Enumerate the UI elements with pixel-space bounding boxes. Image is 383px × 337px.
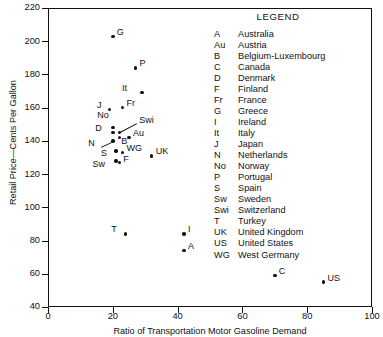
legend-entry-code: UK	[214, 227, 238, 238]
data-point	[182, 232, 185, 235]
scatter-chart-figure: 406080100120140160180200220 020406080100…	[0, 0, 383, 337]
y-axis-title: Retail Price—Cents Per Gallon	[9, 53, 18, 233]
legend-entry-code: Swi	[214, 205, 238, 216]
y-tick-mark	[42, 8, 48, 9]
y-tick-mark	[42, 141, 48, 142]
legend-entry-name: Portugal	[238, 172, 364, 183]
legend-entry-name: West Germany	[238, 250, 364, 261]
legend-entry-code: US	[214, 238, 238, 249]
legend-entry-code: F	[214, 84, 238, 95]
data-point-label: Sw	[93, 160, 106, 169]
legend-entries: AAustraliaAuAustriaBBelgium-LuxembourgCC…	[214, 29, 364, 261]
legend: LEGEND AAustraliaAuAustriaBBelgium-Luxem…	[214, 12, 364, 261]
legend-entry-code: N	[214, 150, 238, 161]
legend-entry-name: Sweden	[238, 194, 364, 205]
legend-entry: IIreland	[214, 117, 364, 128]
legend-entry-code: P	[214, 172, 238, 183]
data-point-label: D	[95, 124, 102, 133]
legend-entry-name: Norway	[238, 161, 364, 172]
legend-entry-code: A	[214, 29, 238, 40]
legend-title: LEGEND	[214, 12, 364, 22]
legend-entry-name: United Kingdom	[238, 227, 364, 238]
legend-entry: ItItaly	[214, 128, 364, 139]
y-tick-mark	[42, 274, 48, 275]
y-tick-mark	[42, 41, 48, 42]
legend-entry-code: No	[214, 161, 238, 172]
y-tick-mark	[42, 74, 48, 75]
legend-entry: AuAustria	[214, 40, 364, 51]
legend-entry: BBelgium-Luxembourg	[214, 51, 364, 62]
legend-entry-code: G	[214, 106, 238, 117]
legend-entry: PPortugal	[214, 172, 364, 183]
legend-entry-name: Ireland	[238, 117, 364, 128]
data-point-label: C	[279, 267, 286, 276]
legend-entry-name: Switzerland	[238, 205, 364, 216]
legend-entry-name: Spain	[238, 183, 364, 194]
legend-entry-name: Japan	[238, 139, 364, 150]
y-tick-label: 80	[6, 236, 40, 245]
legend-entry-code: Au	[214, 40, 238, 51]
legend-entry: WGWest Germany	[214, 250, 364, 261]
legend-entry: FrFrance	[214, 95, 364, 106]
data-point-label: A	[188, 242, 194, 251]
legend-entry-name: France	[238, 95, 364, 106]
legend-entry-name: Australia	[238, 29, 364, 40]
data-point	[111, 131, 114, 134]
legend-entry-name: Netherlands	[238, 150, 364, 161]
data-point	[182, 249, 185, 252]
legend-entry-code: J	[214, 139, 238, 150]
data-point-label: P	[139, 59, 145, 68]
legend-entry: NoNorway	[214, 161, 364, 172]
y-tick-mark	[42, 207, 48, 208]
y-tick-label: 220	[6, 3, 40, 12]
y-tick-mark	[42, 241, 48, 242]
data-point	[273, 274, 276, 277]
legend-entry-code: T	[214, 216, 238, 227]
legend-entry: CCanada	[214, 62, 364, 73]
y-tick-mark	[42, 108, 48, 109]
legend-entry: AAustralia	[214, 29, 364, 40]
legend-entry-name: Austria	[238, 40, 364, 51]
legend-entry-code: Sw	[214, 194, 238, 205]
data-point	[118, 161, 121, 164]
x-tick-label: 100	[357, 312, 383, 321]
data-point	[111, 35, 114, 38]
legend-entry: DDenmark	[214, 73, 364, 84]
legend-entry-code: D	[214, 73, 238, 84]
legend-entry-name: United States	[238, 238, 364, 249]
legend-entry: SwSweden	[214, 194, 364, 205]
data-point	[134, 66, 137, 69]
legend-entry-code: C	[214, 62, 238, 73]
legend-entry: FFinland	[214, 84, 364, 95]
data-point-label: I	[188, 225, 191, 234]
legend-entry-code: WG	[214, 250, 238, 261]
data-point-label: Swi	[139, 116, 154, 125]
data-point-label: T	[111, 225, 117, 234]
legend-entry-name: Canada	[238, 62, 364, 73]
data-point-label: WG	[127, 144, 143, 153]
legend-entry-name: Turkey	[238, 216, 364, 227]
legend-entry: GGreece	[214, 106, 364, 117]
data-point-label: US	[327, 274, 340, 283]
data-point-label: Au	[133, 129, 144, 138]
y-tick-mark	[42, 174, 48, 175]
x-tick-label: 20	[98, 312, 128, 321]
data-point	[150, 154, 153, 157]
x-tick-label: 40	[163, 312, 193, 321]
x-tick-label: 60	[227, 312, 257, 321]
legend-entry-code: S	[214, 183, 238, 194]
x-axis-title: Ratio of Transportation Motor Gasoline D…	[48, 327, 372, 336]
data-point-label: No	[97, 111, 109, 120]
data-point	[114, 149, 117, 152]
data-point-label: S	[101, 149, 107, 158]
legend-entry: SwiSwitzerland	[214, 205, 364, 216]
legend-entry-name: Italy	[238, 128, 364, 139]
legend-entry-name: Greece	[238, 106, 364, 117]
legend-entry-code: It	[214, 128, 238, 139]
legend-entry: TTurkey	[214, 216, 364, 227]
legend-entry: NNetherlands	[214, 150, 364, 161]
data-point-label: F	[123, 155, 129, 164]
x-tick-label: 0	[33, 312, 63, 321]
data-point-label: G	[117, 28, 124, 37]
legend-entry-code: B	[214, 51, 238, 62]
